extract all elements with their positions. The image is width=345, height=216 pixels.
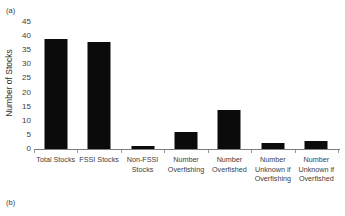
y-axis-title: Number of Stocks: [4, 28, 14, 138]
y-axis-tick-label: 35: [22, 45, 31, 55]
y-axis-tick-label: 15: [22, 102, 31, 112]
x-axis-tick: [338, 150, 339, 153]
figure-panel-a: (a) 051015202530354045 Number of Stocks …: [0, 0, 345, 216]
x-axis-tick-label: Number Unknown if Overfished: [295, 155, 338, 184]
bar[interactable]: [218, 110, 241, 150]
y-axis-tick-label: 0: [27, 144, 31, 154]
bar-slot: [251, 22, 294, 149]
x-axis-tick: [295, 150, 296, 153]
bar[interactable]: [44, 39, 67, 149]
bar-slot: [164, 22, 207, 149]
y-axis-tick-label: 10: [22, 116, 31, 126]
x-axis-tick: [164, 150, 165, 153]
bar[interactable]: [305, 141, 328, 149]
x-axis-tick: [121, 150, 122, 153]
bar-slot: [121, 22, 164, 149]
x-axis-tick: [77, 150, 78, 153]
y-axis-tick-label: 40: [22, 31, 31, 41]
bar-slot: [295, 22, 338, 149]
panel-label-b: (b): [6, 198, 15, 207]
bar[interactable]: [174, 132, 197, 149]
bar[interactable]: [88, 42, 111, 149]
x-axis-tick-label: FSSI Stocks: [77, 155, 120, 165]
y-axis-tick-label: 45: [22, 17, 31, 27]
bar-slot: [77, 22, 120, 149]
x-axis-tick: [34, 150, 35, 153]
x-axis-tick-label: Total Stocks: [34, 155, 77, 165]
bar-slot: [208, 22, 251, 149]
bar-slot: [34, 22, 77, 149]
y-axis-tick-label: 20: [22, 88, 31, 98]
x-axis-tick-label: Number Unknown if Overfishing: [251, 155, 294, 184]
x-axis-tick: [251, 150, 252, 153]
plot-area: [34, 22, 338, 149]
y-axis-tick-label: 25: [22, 73, 31, 83]
y-axis-tick-label: 5: [27, 130, 31, 140]
x-axis-tick-label: Number Overfished: [208, 155, 251, 174]
x-axis-tick-label: Number Overfishing: [164, 155, 207, 174]
x-axis-tick: [208, 150, 209, 153]
x-axis-tick-label: Non-FSSI Stocks: [121, 155, 164, 174]
y-axis-tick-label: 30: [22, 59, 31, 69]
